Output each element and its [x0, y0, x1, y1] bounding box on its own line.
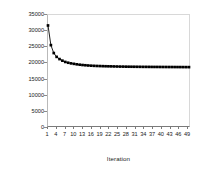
data-point-marker [107, 65, 110, 68]
data-point-marker [147, 66, 150, 69]
x-tick-mark [108, 127, 109, 129]
data-point-marker [165, 66, 168, 69]
x-tick-mark [170, 127, 171, 129]
data-point-marker [104, 65, 107, 68]
data-point-marker [98, 65, 101, 68]
data-point-marker [78, 63, 81, 66]
x-tick-label: 49 [180, 130, 194, 138]
data-point-marker [156, 66, 159, 69]
data-point-marker [70, 62, 73, 65]
data-point-marker [185, 66, 188, 69]
y-tick-label: 30000 [16, 27, 44, 33]
data-point-marker [47, 24, 50, 27]
data-point-marker [58, 58, 61, 61]
data-point-marker [75, 63, 78, 66]
x-axis-tick-labels: 1471013161922252831343740434649 [47, 130, 190, 140]
x-tick-mark [135, 127, 136, 129]
data-point-marker [179, 66, 182, 69]
series-line [48, 25, 189, 67]
data-point-marker [67, 61, 70, 64]
data-point-marker [50, 44, 53, 47]
data-point-marker [145, 66, 148, 69]
y-axis-tick-labels: 35000300002500020000150001000050000 [15, 0, 44, 174]
x-tick-mark [56, 127, 57, 129]
x-tick-mark [187, 127, 188, 129]
data-point-marker [116, 65, 119, 68]
x-tick-mark [152, 127, 153, 129]
data-point-marker [142, 66, 145, 69]
x-tick-mark [65, 127, 66, 129]
data-point-marker [81, 64, 84, 67]
data-point-marker [136, 65, 139, 68]
data-point-marker [153, 66, 156, 69]
x-tick-mark [73, 127, 74, 129]
data-point-marker [119, 65, 122, 68]
data-point-marker [162, 66, 165, 69]
data-point-marker [113, 65, 116, 68]
data-point-marker [168, 66, 171, 69]
data-point-marker [159, 66, 162, 69]
data-point-marker [124, 65, 127, 68]
x-tick-mark [178, 127, 179, 129]
data-point-marker [188, 66, 191, 69]
data-point-marker [101, 65, 104, 68]
x-tick-mark [91, 127, 92, 129]
data-point-marker [133, 65, 136, 68]
data-point-marker [96, 65, 99, 68]
series-markers [47, 24, 191, 68]
data-point-marker [176, 66, 179, 69]
series-total-travel-time [48, 15, 189, 126]
y-tick-label: 10000 [16, 92, 44, 98]
x-tick-mark [47, 127, 48, 129]
x-tick-mark [100, 127, 101, 129]
data-point-marker [173, 66, 176, 69]
data-point-marker [110, 65, 113, 68]
y-tick-label: 15000 [16, 76, 44, 82]
data-point-marker [93, 65, 96, 68]
data-point-marker [182, 66, 185, 69]
data-point-marker [150, 66, 153, 69]
data-point-marker [170, 66, 173, 69]
data-point-marker [127, 65, 130, 68]
data-point-marker [130, 65, 133, 68]
x-tick-mark [117, 127, 118, 129]
chart-container: Total Travel Time (veh-min) 350003000025… [0, 0, 207, 174]
data-point-marker [121, 65, 124, 68]
y-tick-label: 20000 [16, 59, 44, 65]
data-point-marker [73, 63, 76, 66]
data-point-marker [61, 59, 64, 62]
data-point-marker [52, 52, 55, 55]
y-tick-label: 35000 [16, 11, 44, 17]
data-point-marker [64, 61, 67, 64]
data-point-marker [84, 64, 87, 67]
data-point-marker [87, 64, 90, 67]
x-axis-title: Iteration [47, 155, 190, 162]
data-point-marker [139, 65, 142, 68]
x-tick-mark [126, 127, 127, 129]
x-tick-mark [161, 127, 162, 129]
y-tick-label: 5000 [16, 108, 44, 114]
x-tick-mark [82, 127, 83, 129]
data-point-marker [55, 56, 58, 59]
data-point-marker [90, 64, 93, 67]
y-tick-label: 25000 [16, 43, 44, 49]
x-tick-mark [143, 127, 144, 129]
plot-area [47, 14, 190, 127]
